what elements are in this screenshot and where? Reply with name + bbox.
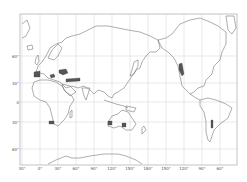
graticule bbox=[20, 14, 237, 165]
region-middle-east bbox=[66, 78, 80, 82]
antarctica-outline bbox=[48, 154, 142, 164]
japan-outline bbox=[130, 60, 138, 76]
map-frame bbox=[20, 14, 237, 165]
lon-label-60e: 60° bbox=[69, 166, 83, 171]
lon-label-0: 0° bbox=[33, 166, 47, 171]
lon-label-90e: 90° bbox=[87, 166, 101, 171]
region-south-australia bbox=[122, 123, 126, 127]
lat-label-30s: 30° bbox=[8, 120, 19, 125]
lon-label-150e: 150° bbox=[123, 166, 137, 171]
lon-label-120e: 120° bbox=[105, 166, 119, 171]
lon-label-180: 180° bbox=[141, 166, 155, 171]
iceland-outline bbox=[27, 45, 33, 50]
region-southwest-australia bbox=[108, 121, 112, 125]
greenland-west-outline bbox=[226, 16, 236, 34]
lon-label-90w: 90° bbox=[195, 166, 209, 171]
madagascar-outline bbox=[70, 110, 72, 118]
india-outline bbox=[82, 88, 90, 100]
new-guinea-outline bbox=[126, 106, 136, 112]
lon-label-120w: 120° bbox=[177, 166, 191, 171]
lon-label-60w: 60° bbox=[213, 166, 227, 171]
lat-label-0: 0 bbox=[8, 100, 19, 105]
region-central-chile bbox=[211, 120, 213, 128]
region-italy-greece bbox=[50, 74, 55, 78]
region-iberia bbox=[34, 71, 40, 77]
indonesia-outline bbox=[104, 100, 128, 108]
greenland-east-outline bbox=[22, 20, 30, 38]
uk-outline bbox=[35, 55, 39, 65]
central-america-outline bbox=[190, 94, 200, 100]
africa-outline bbox=[32, 80, 74, 126]
lon-label-30w: 30° bbox=[15, 166, 29, 171]
lat-label-60n: 60° bbox=[8, 54, 19, 59]
lon-label-150w: 150° bbox=[159, 166, 173, 171]
eurasia-outline bbox=[36, 26, 160, 98]
lon-label-30e: 30° bbox=[51, 166, 65, 171]
region-mediterranean-turkey bbox=[59, 69, 68, 75]
world-map bbox=[0, 0, 247, 182]
south-america-outline bbox=[200, 98, 232, 142]
scandinavia-outline bbox=[48, 44, 62, 60]
lat-label-30n: 30° bbox=[8, 81, 19, 86]
region-cape-south-africa bbox=[49, 121, 54, 124]
new-zealand-outline bbox=[142, 126, 146, 134]
lat-label-60s: 60° bbox=[8, 147, 19, 152]
